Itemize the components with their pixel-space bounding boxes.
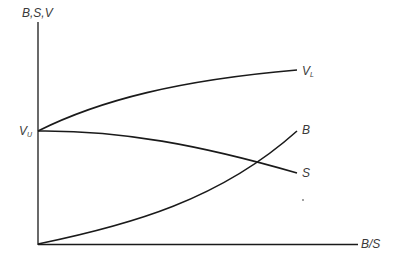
b-curve-label: B	[302, 124, 310, 136]
s-curve-label-text: S	[302, 166, 310, 180]
vl-label-main: V	[302, 64, 310, 78]
curve-s	[38, 131, 297, 173]
vl-label-sub: L	[310, 71, 314, 78]
s-curve-label: S	[302, 167, 310, 179]
chart-canvas	[0, 0, 399, 263]
y-axis-label: B,S,V	[22, 7, 53, 19]
x-axis-label-text: B/S	[361, 237, 380, 251]
vu-label-sub: U	[27, 131, 32, 138]
x-axis-label: B/S	[361, 238, 380, 250]
stray-dot	[302, 199, 304, 201]
b-curve-label-text: B	[302, 123, 310, 137]
vu-label-main: V	[19, 124, 27, 138]
y-axis-label-text: B,S,V	[22, 6, 53, 20]
curve-b	[38, 131, 297, 244]
curve-vl	[38, 70, 297, 131]
vu-label: VU	[19, 125, 32, 138]
vl-label: VL	[302, 65, 314, 78]
